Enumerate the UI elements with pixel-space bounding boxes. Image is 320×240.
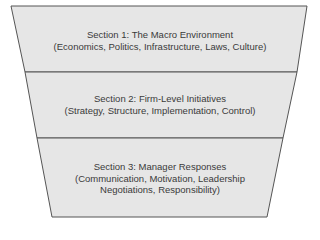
section-3-detail-line-2: Negotiations, Responsibility) <box>0 184 320 196</box>
section-1-title: Section 1: The Macro Environment <box>0 29 320 41</box>
section-2-label: Section 2: Firm-Level Initiatives (Strat… <box>0 93 320 116</box>
section-1-label: Section 1: The Macro Environment (Econom… <box>0 29 320 52</box>
section-1-detail: (Economics, Politics, Infrastructure, La… <box>0 41 320 53</box>
section-3-detail-line-1: (Communication, Motivation, Leadership <box>0 173 320 185</box>
section-2-title: Section 2: Firm-Level Initiatives <box>0 93 320 105</box>
section-3-label: Section 3: Manager Responses (Communicat… <box>0 161 320 196</box>
section-3-title: Section 3: Manager Responses <box>0 161 320 173</box>
section-2-detail: (Strategy, Structure, Implementation, Co… <box>0 105 320 117</box>
